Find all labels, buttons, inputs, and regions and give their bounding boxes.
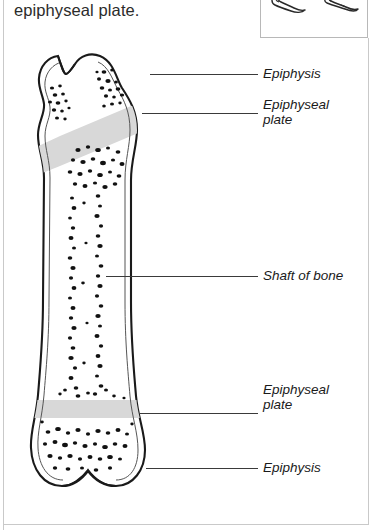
leader-line-epiphysis-top — [150, 74, 258, 75]
leader-line-epiphyseal-plate-top — [142, 113, 258, 114]
label-epiphyseal-plate-top: Epiphyseal plate — [263, 97, 329, 127]
label-epiphysis-bottom: Epiphysis — [263, 460, 321, 475]
label-epiphysis-top: Epiphysis — [263, 66, 321, 81]
label-shaft-of-bone: Shaft of bone — [263, 268, 343, 283]
leader-line-epiphyseal-plate-bottom — [139, 413, 258, 414]
label-epiphyseal-plate-bottom: Epiphyseal plate — [263, 382, 329, 412]
leader-line-epiphysis-bottom — [146, 468, 258, 469]
long-bone-diagram-icon — [0, 0, 386, 530]
page: epiphyseal plate. — [0, 0, 386, 530]
leader-line-shaft-of-bone — [106, 276, 258, 277]
